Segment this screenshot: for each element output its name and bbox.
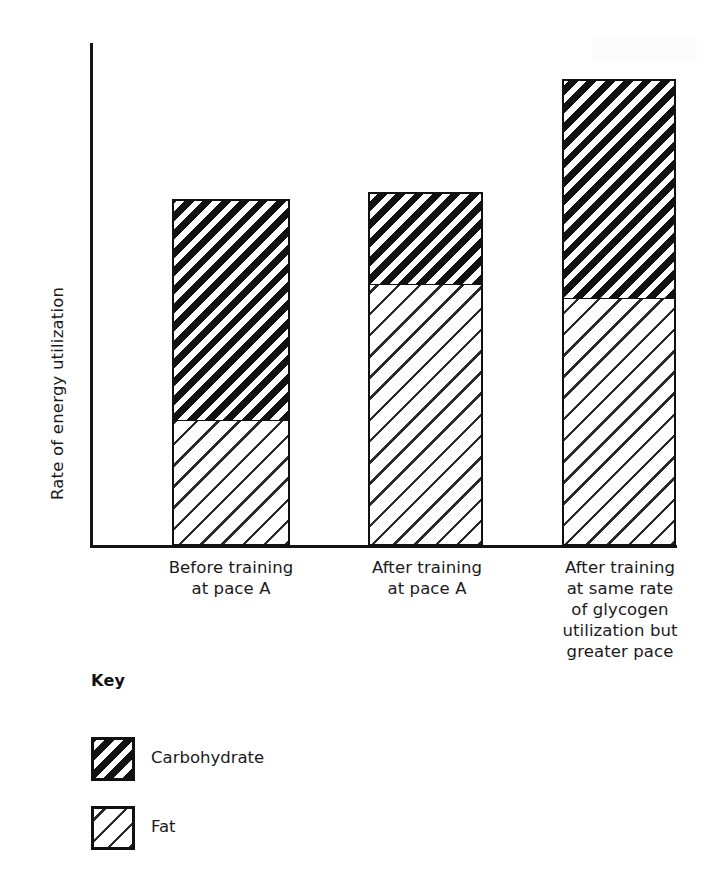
category-label-line: greater pace xyxy=(540,641,700,662)
bar-3-carbohydrate-segment xyxy=(562,79,676,299)
y-axis-line xyxy=(90,43,93,548)
category-label-line: at pace A xyxy=(152,578,310,599)
legend-title: Key xyxy=(91,671,125,690)
bar-after-training-greater-pace xyxy=(562,79,676,546)
y-axis-label: Rate of energy utilization xyxy=(48,180,78,500)
category-label-line: Before training xyxy=(152,557,310,578)
category-label-line: After training xyxy=(348,557,506,578)
legend-item-carbohydrate: Carbohydrate xyxy=(91,737,351,781)
bar-after-training-pace-a xyxy=(368,192,483,546)
bar-2-fat-segment xyxy=(368,285,483,546)
category-label-after-training-pace-a: After training at pace A xyxy=(348,557,506,599)
scan-artifact xyxy=(592,36,697,62)
bar-before-training-pace-a xyxy=(172,199,290,546)
bar-3-fat-segment xyxy=(562,299,676,546)
category-label-line: at same rate xyxy=(540,578,700,599)
category-label-after-training-greater-pace: After training at same rate of glycogen … xyxy=(540,557,700,662)
bar-2-carbohydrate-segment xyxy=(368,192,483,285)
category-label-line: at pace A xyxy=(348,578,506,599)
stacked-bar-chart: Rate of energy utilization Before traini… xyxy=(0,0,717,895)
category-label-line: After training xyxy=(540,557,700,578)
legend-item-fat: Fat xyxy=(91,806,351,850)
legend-swatch-fat-icon xyxy=(91,806,135,850)
legend-label-carbohydrate: Carbohydrate xyxy=(151,748,264,767)
category-label-line: of glycogen xyxy=(540,599,700,620)
category-label-line: utilization but xyxy=(540,620,700,641)
bar-1-fat-segment xyxy=(172,421,290,546)
bar-1-carbohydrate-segment xyxy=(172,199,290,421)
legend-label-fat: Fat xyxy=(151,817,176,836)
legend-swatch-carbohydrate-icon xyxy=(91,737,135,781)
category-label-before-training-pace-a: Before training at pace A xyxy=(152,557,310,599)
